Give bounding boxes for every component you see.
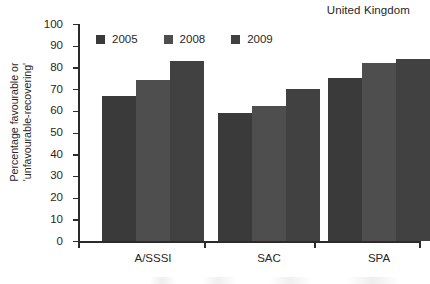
- chart-legend: 200520082009: [96, 33, 299, 45]
- y-axis-tick-label: 100: [44, 17, 63, 31]
- legend-swatch-icon: [96, 35, 105, 44]
- x-axis-line: [78, 241, 420, 243]
- x-axis-tick: [78, 241, 80, 248]
- legend-swatch-icon: [164, 35, 173, 44]
- y-axis-tick-label: 40: [50, 147, 63, 161]
- y-axis-tick: [73, 46, 79, 47]
- y-axis-tick: [73, 24, 79, 25]
- bar-spa-2005: [328, 78, 362, 241]
- y-axis-tick: [73, 198, 79, 199]
- y-axis-tick-label: 0: [57, 234, 63, 248]
- y-axis-tick-label: 90: [50, 38, 63, 52]
- y-axis-title: Percentage favourable or 'unfavourable-r…: [6, 0, 48, 245]
- bar-sac-2008: [252, 106, 286, 241]
- x-axis-category-label: SAC: [257, 252, 281, 264]
- y-axis-tick-label: 50: [50, 125, 63, 139]
- y-axis-tick-label: 10: [50, 212, 63, 226]
- y-axis-tick-label: 30: [50, 168, 63, 182]
- y-axis-tick-label: 20: [50, 190, 63, 204]
- y-axis-title-line-1: Percentage favourable or: [8, 6, 21, 238]
- y-axis-tick-label: 60: [50, 103, 63, 117]
- bar-sac-2005: [218, 113, 252, 241]
- legend-label: 2009: [247, 33, 273, 45]
- y-axis-tick: [73, 89, 79, 90]
- x-axis-tick: [314, 241, 316, 248]
- x-axis-category-label: A/SSSI: [134, 252, 171, 264]
- bar-a-sssi-2008: [136, 80, 170, 241]
- chart-title: United Kingdom: [327, 4, 410, 16]
- scan-artifact: [150, 277, 428, 284]
- legend-item-2008: 2008: [164, 33, 206, 45]
- legend-swatch-icon: [231, 35, 240, 44]
- y-axis-tick: [73, 67, 79, 68]
- legend-item-2009: 2009: [231, 33, 273, 45]
- plot-area: 0102030405060708090100A/SSSISACSPA: [78, 24, 420, 241]
- y-axis-tick: [73, 133, 79, 134]
- y-axis-tick: [73, 111, 79, 112]
- y-axis-tick-label: 70: [50, 82, 63, 96]
- x-axis-tick: [204, 241, 206, 248]
- bar-a-sssi-2009: [170, 61, 204, 241]
- legend-label: 2005: [112, 33, 138, 45]
- legend-item-2005: 2005: [96, 33, 138, 45]
- y-axis-tick: [73, 176, 79, 177]
- y-axis-tick-label: 80: [50, 60, 63, 74]
- bar-a-sssi-2005: [102, 96, 136, 241]
- x-axis-category-label: SPA: [368, 252, 390, 264]
- y-axis-tick: [73, 154, 79, 155]
- bar-sac-2009: [286, 89, 320, 241]
- legend-label: 2008: [180, 33, 206, 45]
- y-axis-title-line-2: 'unfavourable-recovering': [21, 6, 34, 238]
- y-axis-tick: [73, 219, 79, 220]
- bar-spa-2009: [396, 59, 430, 241]
- bar-spa-2008: [362, 63, 396, 241]
- x-axis-tick: [419, 241, 421, 248]
